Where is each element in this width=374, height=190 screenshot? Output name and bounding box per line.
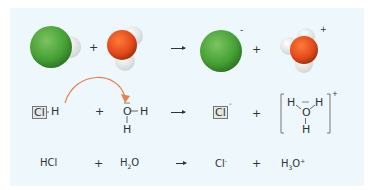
plus-sign: +	[252, 157, 261, 170]
hydronium-o-atom: O	[302, 107, 311, 118]
reaction-arrow	[171, 112, 185, 113]
formula-chloride: Cl-	[215, 157, 227, 169]
hcl-model	[30, 26, 81, 68]
plus-sign: +	[252, 43, 261, 56]
water-model	[107, 26, 143, 71]
plus-sign: +	[89, 41, 98, 54]
hydronium-charge: +	[332, 91, 338, 98]
hydronium-h-atom: H	[287, 97, 295, 108]
chloride-charge: -	[240, 25, 243, 35]
hcl-h-atom: H	[51, 106, 59, 117]
chloride-charge: -	[229, 101, 232, 108]
formula-hcl: HCl	[40, 157, 57, 168]
water-h-atom: H	[140, 106, 148, 117]
hcl-cl-atom: Cl	[32, 106, 47, 119]
chloride-atom: Cl	[213, 106, 228, 119]
hydronium-h-atom: H	[302, 124, 310, 135]
water-h-atom: H	[123, 124, 131, 135]
reaction-arrow	[176, 163, 186, 164]
plus-sign: +	[94, 157, 103, 170]
plus-sign: +	[252, 107, 261, 120]
water-o-atom: O	[123, 106, 132, 117]
formula-h2o: H2O	[120, 157, 139, 170]
reaction-arrow	[171, 48, 185, 49]
hydronium-h-atom: H	[315, 97, 323, 108]
formula-hydronium: H3O+	[281, 157, 305, 171]
electron-pair-arrow	[65, 77, 125, 103]
chloride-model	[200, 30, 242, 72]
hydronium-charge: +	[320, 25, 327, 34]
plus-sign: +	[95, 105, 104, 118]
hydronium-model	[280, 28, 318, 73]
